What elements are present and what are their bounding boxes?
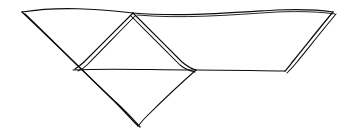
line-drawing-figure — [0, 0, 355, 139]
sketch-canvas — [0, 0, 355, 139]
